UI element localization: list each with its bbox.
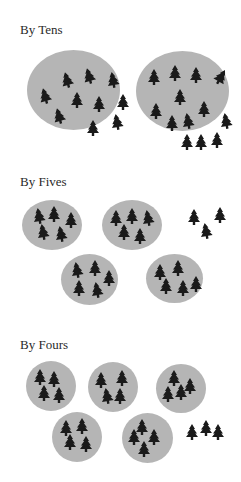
tree-icon bbox=[200, 420, 212, 436]
tree-icon bbox=[138, 441, 150, 457]
tree-icon bbox=[34, 369, 46, 385]
tree-icon bbox=[38, 385, 50, 401]
tree-icon bbox=[100, 387, 115, 405]
section-by-fours: By Fours bbox=[0, 0, 241, 482]
tree-group bbox=[122, 413, 173, 463]
section-heading-fours: By Fours bbox=[20, 338, 68, 351]
tree-icon bbox=[76, 418, 88, 434]
tree-icon bbox=[212, 424, 224, 440]
tree-icon bbox=[175, 384, 187, 400]
tree-icon bbox=[64, 434, 76, 450]
tree-icon bbox=[80, 436, 92, 452]
tree-icon bbox=[186, 424, 198, 440]
tree-icon bbox=[116, 370, 128, 386]
tree-icon bbox=[53, 387, 65, 403]
tree-group bbox=[52, 412, 102, 462]
tree-icon bbox=[95, 372, 107, 388]
tree-group bbox=[88, 362, 138, 412]
tree-group bbox=[156, 364, 206, 413]
tree-icon bbox=[162, 386, 174, 402]
tree-group bbox=[26, 361, 76, 411]
tree-icon bbox=[114, 388, 126, 404]
